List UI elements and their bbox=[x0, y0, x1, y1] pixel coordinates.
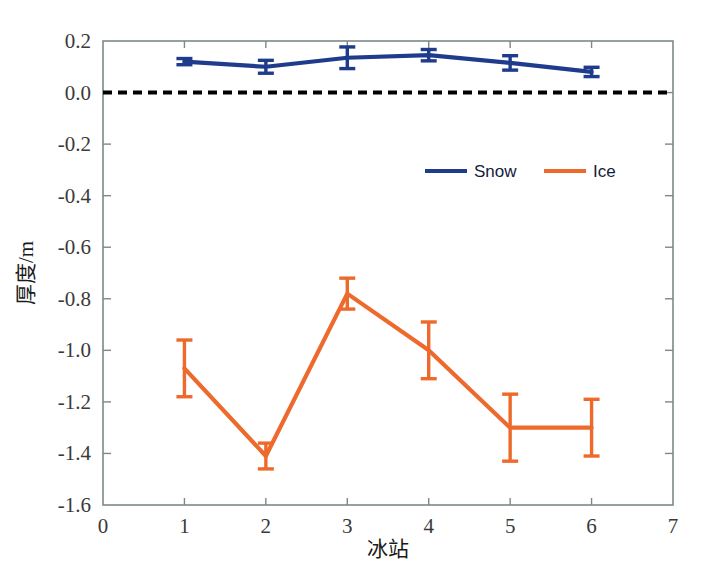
y-tick-label: -0.2 bbox=[58, 132, 91, 156]
y-tick-label: -0.8 bbox=[58, 287, 91, 311]
y-tick-label: -0.6 bbox=[58, 235, 91, 259]
x-tick-label: 4 bbox=[423, 514, 434, 538]
y-tick-label: -1.6 bbox=[58, 493, 91, 517]
y-tick-label: -1.2 bbox=[58, 390, 91, 414]
x-tick-label: 2 bbox=[261, 514, 272, 538]
x-tick-label: 1 bbox=[179, 514, 190, 538]
y-tick-label: -1.4 bbox=[58, 441, 92, 465]
line-chart: 01234567 0.20.0-0.2-0.4-0.6-0.8-1.0-1.2-… bbox=[0, 0, 702, 585]
x-tick-label: 6 bbox=[586, 514, 597, 538]
plot-background bbox=[103, 41, 673, 505]
legend-label-snow: Snow bbox=[474, 162, 517, 181]
y-tick-label: 0.2 bbox=[65, 29, 91, 53]
x-axis-title: 冰站 bbox=[367, 537, 409, 561]
y-tick-label: -1.0 bbox=[58, 338, 91, 362]
y-tick-label: -0.4 bbox=[58, 184, 92, 208]
x-tick-label: 3 bbox=[342, 514, 353, 538]
y-tick-label: 0.0 bbox=[65, 81, 91, 105]
legend-label-ice: Ice bbox=[593, 162, 616, 181]
x-tick-label: 7 bbox=[668, 514, 679, 538]
figure-container: 01234567 0.20.0-0.2-0.4-0.6-0.8-1.0-1.2-… bbox=[0, 0, 702, 585]
x-tick-label: 0 bbox=[98, 514, 109, 538]
y-axis-title: 厚度/m bbox=[14, 241, 38, 305]
x-tick-label: 5 bbox=[505, 514, 516, 538]
